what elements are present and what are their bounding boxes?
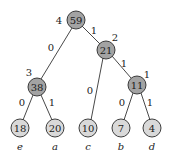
leaf-value: 18 [14, 123, 27, 134]
edge-label-root-right: 1 [91, 25, 97, 36]
edges [23, 26, 150, 120]
node-root: 59 [67, 11, 85, 29]
node-38: 38 [28, 78, 46, 96]
edge-label-38-left: 0 [19, 97, 25, 108]
leaf-d: 4 d [143, 119, 161, 152]
side-label-38: 3 [26, 67, 32, 78]
node-value: 21 [100, 45, 113, 56]
leaf-a: 20 a [46, 119, 64, 152]
edge-label-21-right: 1 [121, 58, 127, 69]
node-value: 38 [31, 82, 44, 93]
edge-label-21-left: 0 [87, 85, 93, 96]
leaf-c: 10 c [79, 119, 97, 152]
edge-label-11-right: 1 [147, 97, 153, 108]
edge-root-to-38 [41, 28, 72, 79]
node-21: 21 [97, 41, 115, 59]
leaf-symbol: a [52, 141, 58, 152]
leaf-symbol: d [149, 141, 155, 152]
side-label-root: 4 [56, 15, 62, 26]
leaf-symbol: b [118, 141, 124, 152]
leaf-symbol: c [85, 141, 91, 152]
side-label-21: 2 [112, 32, 118, 43]
edge-label-38-right: 1 [49, 97, 55, 108]
leaf-value: 7 [118, 123, 124, 134]
leaf-e: 18 e [11, 119, 29, 152]
node-value: 59 [70, 15, 83, 26]
side-label-11: 1 [144, 69, 150, 80]
leaf-value: 10 [82, 123, 95, 134]
leaf-value: 4 [149, 123, 155, 134]
huffman-tree-diagram: 0 1 0 1 0 1 0 1 4 2 3 1 59 21 38 11 18 e… [0, 0, 170, 156]
edge-label-11-left: 0 [119, 97, 125, 108]
leaf-b: 7 b [112, 119, 130, 152]
leaf-value: 20 [49, 123, 62, 134]
node-side-labels: 4 2 3 1 [26, 15, 150, 80]
edge-11-to-b [124, 93, 133, 120]
node-11: 11 [128, 76, 146, 94]
leaf-symbol: e [17, 141, 23, 152]
edge-label-root-left: 0 [48, 42, 54, 53]
node-value: 11 [131, 80, 144, 91]
